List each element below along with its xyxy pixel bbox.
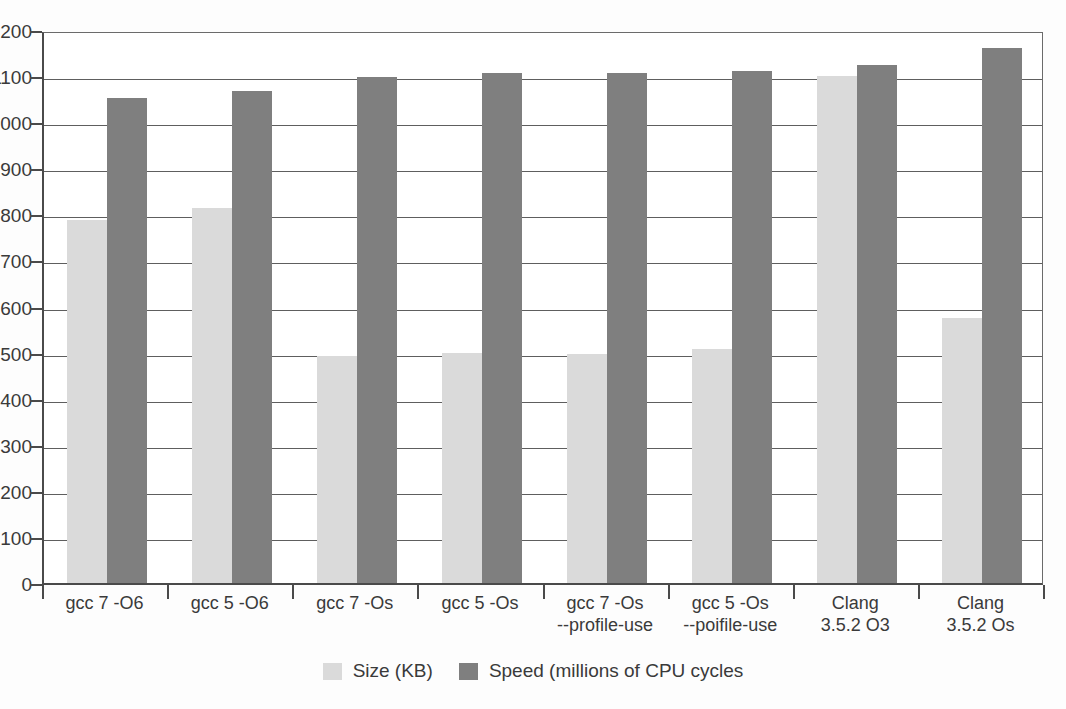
x-axis-tick-mark xyxy=(543,585,545,599)
x-axis-category-label: gcc 7 -Os xyxy=(316,592,393,614)
x-axis-category-label-line1: gcc 5 -Os xyxy=(441,593,518,613)
bar-size-0 xyxy=(67,220,107,583)
x-axis-category-label-line2: --profile-use xyxy=(557,614,653,636)
bar-size-7 xyxy=(942,318,982,583)
x-axis-category-label-line1: gcc 7 -Os xyxy=(567,593,644,613)
bar-size-4 xyxy=(567,354,607,583)
bar-speed-7 xyxy=(982,48,1022,583)
x-axis-tick-mark xyxy=(793,585,795,599)
bar-size-5 xyxy=(692,349,732,583)
y-axis-tick-label: 1000 xyxy=(0,113,32,135)
bars-layer xyxy=(44,33,1042,583)
legend-entry-speed: Speed (millions of CPU cycles xyxy=(459,660,743,682)
y-axis-tick-mark xyxy=(30,77,42,79)
plot-area xyxy=(42,32,1043,585)
x-axis-category-label-line2: --poifile-use xyxy=(683,614,777,636)
legend-label: Size (KB) xyxy=(353,660,433,682)
bar-speed-4 xyxy=(607,73,647,583)
x-axis-category-label-line1: Clang xyxy=(957,593,1004,613)
y-axis-tick-label: 1200 xyxy=(0,21,32,43)
y-axis-tick-mark xyxy=(30,215,42,217)
x-axis-category-label: Clang3.5.2 Os xyxy=(946,592,1014,636)
y-axis-tick-label: 700 xyxy=(0,251,32,273)
x-axis-tick-mark xyxy=(42,585,44,599)
legend-entry-size: Size (KB) xyxy=(323,660,433,682)
y-axis-tick-mark xyxy=(30,492,42,494)
x-axis-category-label-line1: Clang xyxy=(832,593,879,613)
y-axis-tick-mark xyxy=(30,261,42,263)
y-axis-tick-label: 0 xyxy=(0,574,32,596)
x-axis-tick-mark xyxy=(167,585,169,599)
bar-size-1 xyxy=(192,208,232,583)
y-axis-tick-label: 800 xyxy=(0,205,32,227)
legend-label: Speed (millions of CPU cycles xyxy=(489,660,743,682)
y-axis-tick-mark xyxy=(30,446,42,448)
y-axis-tick-label: 200 xyxy=(0,482,32,504)
y-axis-tick-label: 1100 xyxy=(0,67,32,89)
y-axis-tick-label: 600 xyxy=(0,298,32,320)
bar-speed-3 xyxy=(482,73,522,583)
x-axis-tick-mark xyxy=(918,585,920,599)
y-axis-tick-label: 500 xyxy=(0,344,32,366)
x-axis-category-label-line1: gcc 5 -O6 xyxy=(191,593,269,613)
y-axis-tick-mark xyxy=(30,538,42,540)
y-axis-tick-label: 900 xyxy=(0,159,32,181)
y-axis-tick-label: 100 xyxy=(0,528,32,550)
bar-size-2 xyxy=(317,356,357,583)
bar-chart: 0100200300400500600700800900100011001200… xyxy=(0,0,1066,709)
y-axis-tick-label: 400 xyxy=(0,390,32,412)
bar-size-6 xyxy=(817,76,857,583)
x-axis-tick-mark xyxy=(292,585,294,599)
y-axis-tick-mark xyxy=(30,31,42,33)
y-axis-tick-mark xyxy=(30,169,42,171)
bar-speed-2 xyxy=(357,77,397,583)
y-axis-tick-mark xyxy=(30,354,42,356)
y-axis-tick-mark xyxy=(30,123,42,125)
x-axis-category-label: gcc 7 -O6 xyxy=(66,592,144,614)
x-axis-tick-mark xyxy=(668,585,670,599)
bar-speed-6 xyxy=(857,65,897,583)
x-axis-category-label: gcc 5 -Os xyxy=(441,592,518,614)
bar-speed-1 xyxy=(232,91,272,583)
x-axis-category-label-line2: 3.5.2 O3 xyxy=(821,614,890,636)
x-axis-category-label: gcc 7 -Os--profile-use xyxy=(557,592,653,636)
y-axis-tick-mark xyxy=(30,400,42,402)
bar-speed-0 xyxy=(107,98,147,583)
bar-size-3 xyxy=(442,353,482,583)
chart-legend: Size (KB)Speed (millions of CPU cycles xyxy=(0,660,1066,682)
legend-swatch-icon xyxy=(459,663,478,680)
x-axis-category-label: gcc 5 -O6 xyxy=(191,592,269,614)
x-axis-category-label: gcc 5 -Os--poifile-use xyxy=(683,592,777,636)
x-axis-category-label-line1: gcc 5 -Os xyxy=(692,593,769,613)
legend-swatch-icon xyxy=(323,663,342,680)
x-axis-category-label-line1: gcc 7 -O6 xyxy=(66,593,144,613)
bar-speed-5 xyxy=(732,71,772,583)
x-axis-category-label: Clang3.5.2 O3 xyxy=(821,592,890,636)
x-axis-category-label-line2: 3.5.2 Os xyxy=(946,614,1014,636)
x-axis-tick-mark xyxy=(417,585,419,599)
x-axis-category-label-line1: gcc 7 -Os xyxy=(316,593,393,613)
y-axis-tick-mark xyxy=(30,308,42,310)
y-axis-tick-label: 300 xyxy=(0,436,32,458)
x-axis-tick-mark xyxy=(1043,585,1045,599)
y-axis-tick-mark xyxy=(30,584,42,586)
